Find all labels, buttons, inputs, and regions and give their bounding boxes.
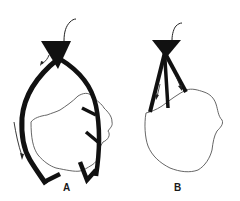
- panel-a-right-hook-bottom: [80, 162, 96, 180]
- panel-a-left-foot: [44, 174, 60, 182]
- panel-b-label: B: [174, 183, 181, 193]
- panel-a-barb-lower: [86, 132, 98, 142]
- panel-b-organ-outline: [145, 89, 223, 172]
- panel-b-arrow-left-head: [155, 94, 159, 100]
- panel-b: [145, 23, 223, 172]
- panel-a-left-arm: [22, 59, 58, 184]
- diagram-figure: A B: [0, 0, 240, 201]
- panel-a-lead-wire: [64, 19, 76, 41]
- panel-b-cone: [152, 40, 181, 58]
- diagram-canvas: [0, 0, 240, 201]
- panel-a-arrow-near-cone-head: [40, 61, 44, 66]
- panel-a-barb-upper: [82, 108, 96, 115]
- panel-b-arrow-right-head: [178, 85, 182, 91]
- panel-a-inner-arrow-1: [36, 148, 38, 151]
- panel-a-side-arrow-head: [20, 153, 24, 160]
- panel-b-lead-wire: [172, 23, 182, 40]
- panel-a-label: A: [63, 183, 70, 193]
- panel-a: [14, 19, 112, 184]
- panel-a-inner-arrow-2: [45, 168, 50, 170]
- panel-a-right-arm: [60, 59, 99, 176]
